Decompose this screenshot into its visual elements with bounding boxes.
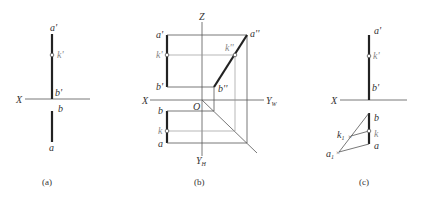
label-k: k — [158, 125, 163, 136]
mark-k1: × — [348, 133, 352, 141]
label-a-prime: a' — [156, 29, 164, 40]
caption-a: (a) — [42, 177, 52, 187]
panel-b: Z a' a'' k' k'' b' b'' X O YW b k a YH (… — [141, 11, 278, 187]
projection-diagram: a' k' b' X b a (a) Z a' a'' k — [0, 0, 421, 200]
caption-c: (c) — [359, 177, 369, 187]
label-a: a — [374, 140, 379, 151]
label-a: a — [49, 142, 54, 153]
label-k-prime: k' — [57, 49, 64, 60]
label-origin: O — [193, 101, 200, 112]
label-yh: YH — [196, 155, 207, 167]
label-x: X — [141, 95, 149, 106]
label-b-prime: b' — [372, 82, 380, 93]
label-k-dprime: k'' — [225, 42, 235, 53]
label-b-prime: b' — [156, 81, 164, 92]
point-k — [165, 129, 169, 133]
point-k-prime — [50, 53, 54, 57]
point-k-dprime — [233, 53, 237, 57]
label-k: k — [374, 128, 379, 139]
label-k-prime: k' — [373, 50, 380, 61]
label-b: b — [374, 112, 379, 123]
label-b-dprime: b'' — [218, 83, 228, 94]
label-b-prime: b' — [55, 87, 63, 98]
label-k-prime: k' — [156, 49, 163, 60]
panel-c: × × a' k' b' X b k a k1 a1 (c) — [326, 25, 407, 187]
label-a-prime: a' — [50, 22, 58, 33]
label-a-prime: a' — [374, 25, 382, 36]
label-x: X — [15, 94, 23, 105]
label-b: b — [58, 103, 63, 114]
point-k-prime — [165, 53, 169, 57]
label-k1: k1 — [337, 129, 344, 141]
label-a-dprime: a'' — [250, 28, 260, 39]
yw-subscript: W — [272, 101, 278, 107]
a1-subscript: 1 — [331, 154, 334, 160]
label-yw: YW — [266, 95, 278, 107]
label-a: a — [158, 138, 163, 149]
caption-b: (b) — [194, 177, 205, 187]
point-k-prime — [367, 54, 371, 58]
mark-a1: × — [336, 149, 340, 157]
label-x: X — [330, 95, 338, 106]
k1-subscript: 1 — [341, 135, 344, 141]
label-b: b — [158, 105, 163, 116]
point-k — [367, 129, 371, 133]
label-z: Z — [199, 11, 205, 22]
label-a1: a1 — [326, 148, 334, 160]
yh-subscript: H — [201, 161, 207, 167]
panel-a: a' k' b' X b a (a) — [15, 22, 90, 187]
line-a-a1 — [339, 144, 369, 152]
diagonal-45 — [202, 100, 257, 153]
